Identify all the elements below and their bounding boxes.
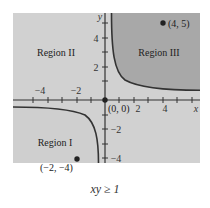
point-origin-label: (0, 0)	[108, 103, 130, 115]
svg-text:−2: −2	[71, 85, 82, 96]
svg-text:x: x	[193, 103, 199, 114]
svg-text:2: 2	[94, 62, 99, 73]
graph-caption: xy ≥ 1	[0, 182, 210, 197]
svg-text:−4: −4	[111, 153, 122, 164]
svg-text:4: 4	[163, 103, 168, 114]
svg-text:Region III: Region III	[138, 47, 179, 58]
point-origin	[102, 97, 107, 102]
inequality-graph: −4 −2 2 4 4 2 −2 −4 x y Region II Region…	[0, 0, 210, 208]
point-neg2-neg4	[74, 156, 79, 161]
point-neg2-neg4-label: (−2, −4)	[40, 162, 73, 174]
svg-text:Region I: Region I	[38, 137, 73, 148]
svg-text:4: 4	[94, 33, 99, 44]
svg-text:−2: −2	[111, 124, 122, 135]
svg-text:2: 2	[136, 103, 141, 114]
point-4-5-label: (4, 5)	[168, 18, 190, 30]
svg-text:y: y	[97, 11, 103, 22]
point-4-5	[160, 20, 165, 25]
svg-text:−4: −4	[35, 85, 46, 96]
svg-text:Region II: Region II	[37, 47, 75, 58]
